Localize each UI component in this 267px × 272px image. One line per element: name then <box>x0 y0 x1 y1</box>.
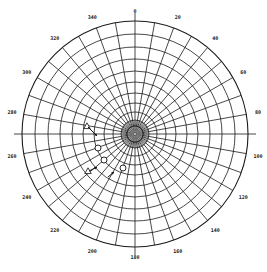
angle-label: 200 <box>88 248 97 254</box>
angle-label: 160 <box>173 248 182 254</box>
angle-label: 280 <box>7 109 16 115</box>
angle-label: 0 <box>133 8 136 14</box>
angle-label: 100 <box>254 153 263 159</box>
angle-label: 320 <box>50 35 59 41</box>
circle-marker <box>120 165 126 171</box>
angle-label: 20 <box>175 14 181 20</box>
circle-marker <box>101 157 107 163</box>
angle-label: 240 <box>22 194 31 200</box>
angle-label: 180 <box>130 254 139 260</box>
angle-label: 120 <box>239 194 248 200</box>
circle-marker <box>95 145 101 151</box>
polar-chart: 0204060801001201401601802002202402602803… <box>0 0 267 272</box>
angle-label: 140 <box>211 227 220 233</box>
angle-label: 260 <box>7 153 16 159</box>
angle-label: 40 <box>212 35 218 41</box>
angle-label: 340 <box>88 14 97 20</box>
angle-label: 80 <box>255 109 261 115</box>
angle-label: 220 <box>50 227 59 233</box>
center-hub <box>127 126 143 142</box>
angle-label: 60 <box>240 69 246 75</box>
angle-label: 300 <box>22 69 31 75</box>
